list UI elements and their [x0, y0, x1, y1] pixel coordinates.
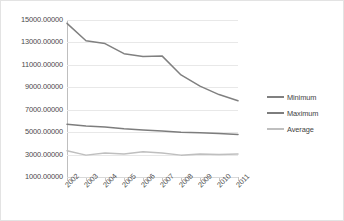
- x-axis-tick-label: 2011: [234, 172, 251, 189]
- legend-swatch-icon: [267, 96, 284, 98]
- legend-item-minimum[interactable]: Minimum: [267, 89, 343, 105]
- legend-item-maximum[interactable]: Maximum: [267, 105, 343, 121]
- legend-item-average[interactable]: Average: [267, 121, 343, 137]
- legend-label: Maximum: [287, 109, 318, 118]
- x-axis-tick-label: 2009: [196, 172, 214, 190]
- legend-swatch-icon: [267, 112, 284, 114]
- legend-label: Average: [287, 125, 314, 134]
- legend-label: Minimum: [287, 93, 316, 102]
- line-chart: 1000.000003000.000005000.000007000.00000…: [0, 0, 344, 221]
- x-axis-tick-label: 2010: [215, 172, 233, 190]
- x-axis-tick-label: 2005: [120, 172, 138, 190]
- x-axis-tick-label: 2008: [177, 172, 195, 190]
- chart-legend: MinimumMaximumAverage: [267, 89, 343, 137]
- x-axis-tick-label: 2002: [63, 172, 81, 190]
- x-axis-tick-label: 2004: [101, 172, 119, 190]
- legend-swatch-icon: [267, 128, 284, 130]
- x-axis-tick-label: 2007: [158, 172, 176, 190]
- x-axis-tick-label: 2006: [139, 172, 157, 190]
- x-axis-tick-label: 2003: [82, 172, 100, 190]
